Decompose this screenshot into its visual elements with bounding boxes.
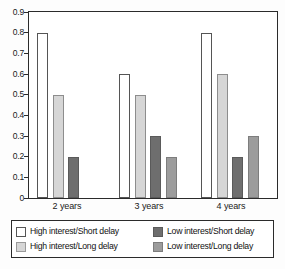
y-axis-tick: 0.3 [2,131,24,141]
y-axis-tick-label: 0.9 [13,8,24,17]
y-axis-tick-label: 0.5 [13,90,24,99]
bar[interactable] [166,157,177,198]
legend-swatch-icon [16,242,26,252]
y-axis-tick-labels: 0.90.80.70.60.50.40.30.20.10 [2,12,24,198]
y-axis-tick: 0.7 [2,48,24,58]
y-axis-tick: 0.4 [2,110,24,120]
bar-slot [68,12,84,198]
bar-slot [166,12,182,198]
bar-group [119,12,181,198]
bar-slot [37,12,53,198]
legend-item[interactable]: High interest/Long delay [16,239,153,254]
y-axis-tick-label: 0.1 [13,173,24,182]
legend-label: Low interest/Long delay [167,242,253,251]
bar-slot [150,12,166,198]
legend-label: Low interest/Short delay [167,227,254,236]
legend-swatch-icon [16,227,26,237]
legend-swatch-icon [153,227,163,237]
plot-area: 0.90.80.70.60.50.40.30.20.10 2 years3 ye… [0,0,285,212]
bar[interactable] [248,136,259,198]
y-axis-tick: 0.6 [2,69,24,79]
bar[interactable] [135,95,146,198]
bar-slot [119,12,135,198]
y-axis-tick-label: 0.7 [13,49,24,58]
x-axis-tick-label: 4 years [194,200,268,212]
bar-slot [248,12,264,198]
legend-item[interactable]: Low interest/Short delay [153,224,269,239]
x-axis-tick-label: 2 years [30,200,104,212]
bar-slot [232,12,248,198]
chart-legend: High interest/Short delayLow interest/Sh… [11,220,274,258]
x-axis-tick-labels: 2 years3 years4 years [28,200,278,214]
bar[interactable] [53,95,64,198]
y-axis-tick: 0 [2,193,24,203]
bars-layer [29,12,277,198]
bar-slot [217,12,233,198]
bar-group [37,12,99,198]
y-axis-tick: 0.5 [2,90,24,100]
y-axis-tick: 0.9 [2,7,24,17]
y-axis-tick: 0.8 [2,28,24,38]
legend-swatch-icon [153,242,163,252]
legend-label: High interest/Long delay [30,242,118,251]
y-axis-tick-label: 0.6 [13,70,24,79]
bar[interactable] [119,74,130,198]
y-axis-tick-label: 0.2 [13,152,24,161]
legend-grid: High interest/Short delayLow interest/Sh… [16,224,269,254]
legend-item[interactable]: Low interest/Long delay [153,239,269,254]
bar-slot [201,12,217,198]
bar[interactable] [150,136,161,198]
y-axis-tick: 0.2 [2,152,24,162]
bar-chart-figure: 0.90.80.70.60.50.40.30.20.10 2 years3 ye… [0,0,285,269]
y-axis-tick-label: 0.4 [13,111,24,120]
bar[interactable] [37,33,48,198]
bar-slot [84,12,100,198]
x-axis-tick-label: 3 years [112,200,186,212]
legend-label: High interest/Short delay [30,227,119,236]
y-axis-tick-label: 0.3 [13,132,24,141]
bar-slot [135,12,151,198]
bar[interactable] [217,74,228,198]
y-axis-tick-label: 0.8 [13,28,24,37]
bar[interactable] [201,33,212,198]
bar[interactable] [68,157,79,198]
bar-slot [53,12,69,198]
y-axis-tick: 0.1 [2,172,24,182]
bar-group [201,12,263,198]
bar[interactable] [232,157,243,198]
legend-item[interactable]: High interest/Short delay [16,224,153,239]
